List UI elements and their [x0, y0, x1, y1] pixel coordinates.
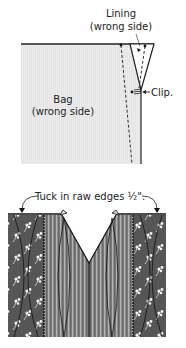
marker-dot: [131, 91, 134, 94]
label-tuck: Tuck in raw edges ½".: [34, 191, 145, 202]
fold-tip-right: [112, 210, 119, 215]
floral-panel-left: [8, 215, 44, 337]
bag-lining-figure: Lining (wrong side) Bag (wrong side) Cli…: [21, 8, 173, 164]
label-lining-sub: (wrong side): [90, 21, 152, 32]
marker-dot: [144, 45, 147, 48]
diagram-canvas: Lining (wrong side) Bag (wrong side) Cli…: [0, 0, 186, 348]
label-bag-sub: (wrong side): [32, 106, 94, 117]
marker-dot: [120, 44, 123, 47]
label-bag: Bag: [53, 94, 72, 105]
tuck-arrow-left-icon: [19, 208, 25, 213]
label-lining: Lining: [106, 8, 136, 19]
label-clip: Clip.: [151, 87, 173, 98]
clip-arrow-icon: [142, 90, 146, 94]
tuck-arrow-right-icon: [154, 208, 160, 213]
tuck-edges-figure: Tuck in raw edges ½".: [8, 191, 166, 337]
floral-panel-right: [133, 215, 166, 337]
fold-tip-left: [60, 210, 67, 215]
